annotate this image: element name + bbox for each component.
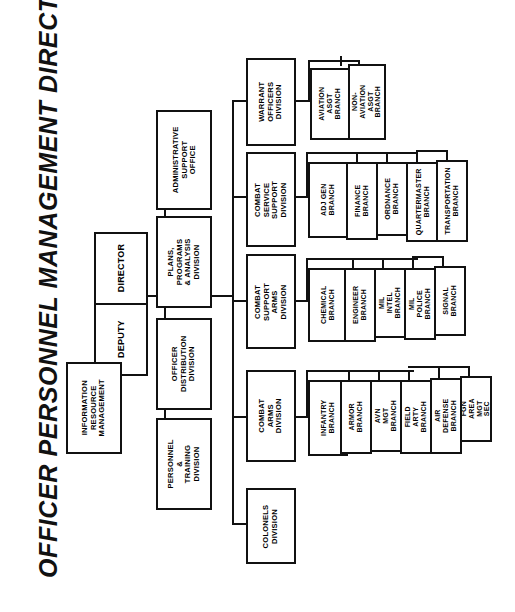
node-colonels-division[interactable]: COLONELS DIVISION bbox=[246, 488, 296, 564]
node-combat-support-arms-division-label: COMBAT SUPPORT ARMS DIVISION bbox=[254, 279, 288, 325]
connector-css-finance bbox=[356, 152, 358, 162]
node-combat-service-support-division[interactable]: COMBAT SERVICE SUPPORT DIVISION bbox=[246, 152, 296, 247]
node-combat-service-support-division-label: COMBAT SERVICE SUPPORT DIVISION bbox=[254, 177, 288, 223]
node-warrant-officers-division[interactable]: WARRANT OFFICERS DIVISION bbox=[246, 58, 296, 146]
node-combat-arms-division-label: COMBAT ARMS DIVISION bbox=[258, 393, 284, 439]
connector-warrant-avn bbox=[308, 60, 360, 62]
node-combat-arms-division[interactable]: COMBAT ARMS DIVISION bbox=[246, 370, 296, 462]
node-avn-mgt-branch-label: AVN MGT BRANCH bbox=[374, 400, 397, 432]
node-warrant-officers-division-label: WARRANT OFFICERS DIVISION bbox=[258, 82, 284, 122]
node-fgn-area-mgt-sec-label: FGN AREA MGT SEC bbox=[460, 395, 491, 423]
node-air-defense-branch-label: AIR DEFENSE BRANCH bbox=[434, 399, 457, 433]
connector-ca-avnmgt bbox=[378, 370, 380, 380]
node-aviation-asgt-branch-label: AVIATION ASGT BRANCH bbox=[318, 86, 341, 122]
connector-ca-fieldarty bbox=[408, 370, 410, 380]
connector-warrant-nonavn-drop bbox=[340, 56, 342, 66]
node-engineer-branch-label: ENGINEER BRANCH bbox=[352, 286, 368, 324]
node-combat-support-arms-division[interactable]: COMBAT SUPPORT ARMS DIVISION bbox=[246, 254, 296, 349]
node-personnel-training-division[interactable]: PERSONNEL & TRAINING DIVISION bbox=[156, 418, 212, 510]
node-adj-gen-branch[interactable]: ADJ GEN BRANCH bbox=[308, 162, 348, 238]
node-air-defense-branch[interactable]: AIR DEFENSE BRANCH bbox=[430, 378, 462, 454]
node-chemical-branch-label: CHEMICAL BRANCH bbox=[320, 286, 336, 325]
node-administrative-support-office[interactable]: ADMINISTRATIVE SUPPORT OFFICE bbox=[156, 110, 212, 210]
connector-csa-rail-ext bbox=[412, 256, 444, 258]
node-ordnance-branch[interactable]: ORDNANCE BRANCH bbox=[376, 162, 408, 236]
node-information-resource-management-label: INFORMATION RESOURCE MANAGEMENT bbox=[81, 379, 107, 436]
connector-ca-rail-top bbox=[306, 370, 414, 372]
node-armor-branch-label: ARMOR BRANCH bbox=[348, 401, 364, 433]
connector-css-qm bbox=[416, 152, 418, 162]
node-adj-gen-branch-label: ADJ GEN BRANCH bbox=[320, 184, 336, 217]
connector-csa-milintel bbox=[382, 258, 384, 268]
connector-divrail-colonels bbox=[232, 523, 246, 525]
node-finance-branch-label: FINANCE BRANCH bbox=[354, 185, 370, 218]
node-plans-programs-analysis-division[interactable]: PLANS, PROGRAMS & ANALYSIS DIVISION bbox=[156, 216, 212, 308]
node-aviation-asgt-branch[interactable]: AVIATION ASGT BRANCH bbox=[310, 68, 350, 140]
node-chemical-branch[interactable]: CHEMICAL BRANCH bbox=[308, 268, 348, 342]
node-infantry-branch-label: INFANTRY BRANCH bbox=[320, 400, 336, 436]
node-personnel-training-division-label: PERSONNEL & TRAINING DIVISION bbox=[167, 438, 201, 490]
node-non-aviation-asgt-branch-label: NON-AVIATION ASGT BRANCH bbox=[351, 85, 382, 119]
node-quartermaster-branch[interactable]: QUARTERMASTER BRANCH bbox=[406, 162, 438, 242]
connector-css-rail-ext bbox=[416, 150, 448, 152]
node-quartermaster-branch-label: QUARTERMASTER BRANCH bbox=[414, 169, 430, 236]
org-chart-page: OFFICER PERSONNEL MANAGEMENT DIRECTORATE bbox=[0, 0, 515, 612]
node-officer-distribution-division-label: OFFICER DISTRIBUTION DIVISION bbox=[171, 336, 197, 392]
connector-divrail-csa bbox=[232, 300, 246, 302]
connector-csa-engineer bbox=[352, 258, 354, 268]
node-transportation-branch[interactable]: TRANSPORTATION BRANCH bbox=[436, 160, 468, 242]
connector-divrail-up bbox=[232, 100, 234, 297]
node-mil-police-branch-label: MIL POLICE BRANCH bbox=[408, 288, 431, 320]
node-engineer-branch[interactable]: ENGINEER BRANCH bbox=[344, 268, 376, 342]
node-fgn-area-mgt-sec[interactable]: FGN AREA MGT SEC bbox=[460, 376, 492, 442]
node-ordnance-branch-label: ORDNANCE BRANCH bbox=[384, 178, 400, 220]
connector-divrail-warrant bbox=[232, 100, 246, 102]
node-armor-branch[interactable]: ARMOR BRANCH bbox=[340, 380, 372, 454]
node-deputy-label: DEPUTY bbox=[116, 321, 126, 359]
node-plans-programs-analysis-division-label: PLANS, PROGRAMS & ANALYSIS DIVISION bbox=[167, 238, 201, 285]
connector-divrail-ca bbox=[232, 416, 246, 418]
connector-css-rail-top bbox=[306, 152, 418, 154]
node-field-arty-branch-label: FIELD ARTY BRANCH bbox=[404, 401, 427, 433]
node-colonels-division-label: COLONELS DIVISION bbox=[262, 504, 279, 548]
node-transportation-branch-label: TRANSPORTATION BRANCH bbox=[444, 167, 460, 234]
node-mil-intel-branch-label: MIL INTEL BRANCH bbox=[378, 287, 401, 319]
connector-css-ordnance bbox=[386, 152, 388, 162]
node-finance-branch[interactable]: FINANCE BRANCH bbox=[346, 162, 378, 240]
node-mil-intel-branch[interactable]: MIL INTEL BRANCH bbox=[374, 268, 406, 338]
node-non-aviation-asgt-branch[interactable]: NON-AVIATION ASGT BRANCH bbox=[348, 64, 386, 140]
node-signal-branch[interactable]: SIGNAL BRANCH bbox=[434, 266, 466, 336]
connector-ca-rail-ext bbox=[408, 366, 470, 368]
node-director[interactable]: DIRECTOR bbox=[94, 232, 148, 305]
node-signal-branch-label: SIGNAL BRANCH bbox=[442, 285, 458, 317]
node-director-label: DIRECTOR bbox=[116, 244, 126, 292]
node-administrative-support-office-label: ADMINISTRATIVE SUPPORT OFFICE bbox=[171, 127, 197, 194]
connector-csa-rail-top bbox=[306, 258, 418, 260]
connector-divrail-css bbox=[232, 196, 246, 198]
node-information-resource-management[interactable]: INFORMATION RESOURCE MANAGEMENT bbox=[66, 362, 122, 454]
connector-deputy-to-divrail bbox=[210, 295, 234, 297]
page-title: OFFICER PERSONNEL MANAGEMENT DIRECTORATE bbox=[25, 18, 71, 578]
connector-ca-armor bbox=[348, 370, 350, 380]
connector-csa-milpolice bbox=[412, 258, 414, 268]
connector-divrail-down bbox=[232, 295, 234, 525]
node-officer-distribution-division[interactable]: OFFICER DISTRIBUTION DIVISION bbox=[156, 318, 212, 410]
node-field-arty-branch[interactable]: FIELD ARTY BRANCH bbox=[400, 380, 432, 454]
node-avn-mgt-branch[interactable]: AVN MGT BRANCH bbox=[370, 380, 402, 452]
node-mil-police-branch[interactable]: MIL POLICE BRANCH bbox=[404, 268, 436, 340]
